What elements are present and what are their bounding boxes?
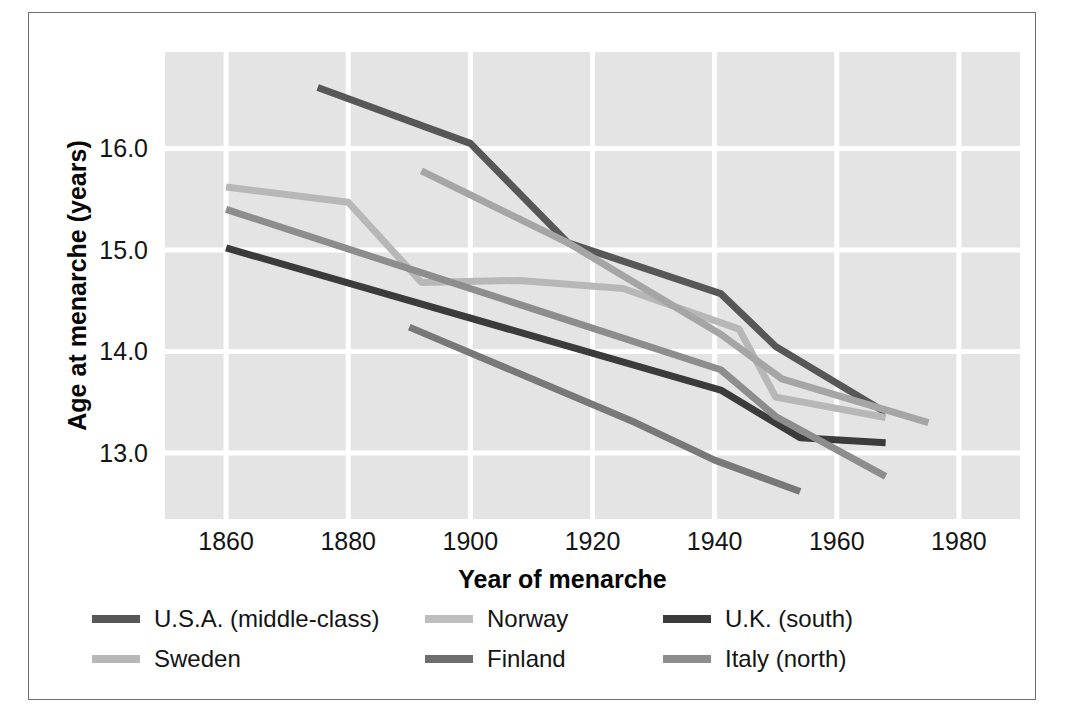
legend-entry: Italy (north) <box>663 645 846 672</box>
x-tick-label: 1980 <box>931 527 987 555</box>
line-chart: 1860188019001920194019601980 13.014.015.… <box>0 0 1083 722</box>
figure-root: 1860188019001920194019601980 13.014.015.… <box>0 0 1083 722</box>
legend-label: Finland <box>487 645 566 672</box>
x-tick-labels: 1860188019001920194019601980 <box>198 527 986 555</box>
legend-label: U.K. (south) <box>725 605 853 632</box>
x-axis-title: Year of menarche <box>458 565 667 593</box>
legend-swatch <box>663 655 711 663</box>
y-tick-label: 15.0 <box>99 236 148 264</box>
y-axis-title: Age at menarche (years) <box>63 140 91 430</box>
x-tick-label: 1900 <box>443 527 499 555</box>
legend-swatch <box>663 615 711 623</box>
chart-area: 1860188019001920194019601980 13.014.015.… <box>0 0 1083 722</box>
y-tick-label: 14.0 <box>99 337 148 365</box>
legend-entry: Finland <box>425 645 566 672</box>
x-tick-label: 1860 <box>198 527 254 555</box>
legend-swatch <box>92 655 140 663</box>
legend-label: U.S.A. (middle-class) <box>154 605 379 632</box>
x-tick-label: 1920 <box>565 527 621 555</box>
x-tick-label: 1940 <box>687 527 743 555</box>
legend-label: Sweden <box>154 645 241 672</box>
legend-swatch <box>92 615 140 623</box>
y-tick-label: 16.0 <box>99 134 148 162</box>
legend-entry: U.S.A. (middle-class) <box>92 605 379 632</box>
legend-entry: U.K. (south) <box>663 605 853 632</box>
y-tick-labels: 13.014.015.016.0 <box>99 134 148 467</box>
legend-swatch <box>425 615 473 623</box>
legend-label: Italy (north) <box>725 645 846 672</box>
y-tick-label: 13.0 <box>99 439 148 467</box>
chart-legend: U.S.A. (middle-class)NorwayU.K. (south)S… <box>92 605 853 672</box>
legend-swatch <box>425 655 473 663</box>
legend-label: Norway <box>487 605 568 632</box>
x-tick-label: 1880 <box>320 527 376 555</box>
legend-entry: Sweden <box>92 645 241 672</box>
legend-entry: Norway <box>425 605 568 632</box>
x-tick-label: 1960 <box>809 527 865 555</box>
